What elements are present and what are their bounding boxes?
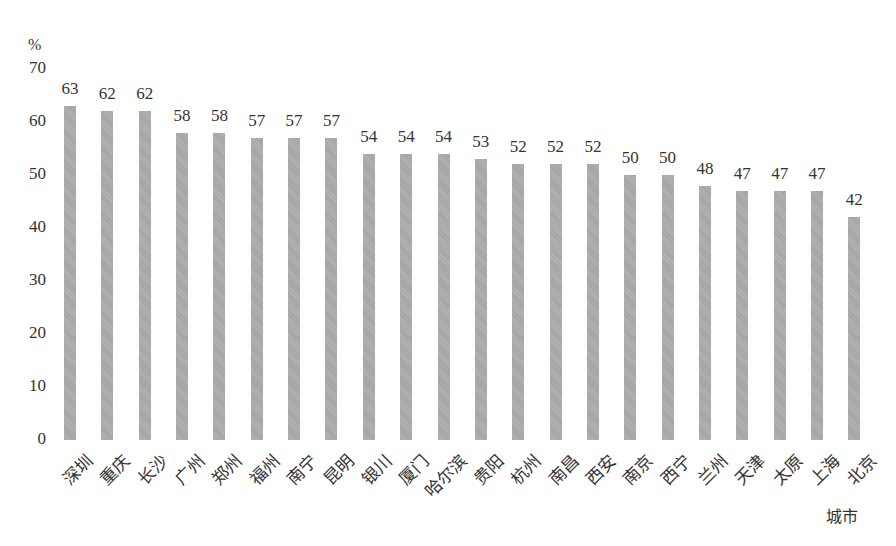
x-tick-label: 西安 <box>579 448 621 490</box>
bar-value-label: 52 <box>573 137 613 157</box>
bar <box>624 175 636 440</box>
y-tick-label: 70 <box>0 58 46 78</box>
bar <box>699 186 711 440</box>
bar-value-label: 47 <box>722 164 762 184</box>
bar <box>288 138 300 440</box>
bar-value-label: 52 <box>498 137 538 157</box>
bar <box>176 133 188 440</box>
x-tick-label: 广州 <box>168 448 210 490</box>
x-tick-label: 哈尔滨 <box>417 448 471 502</box>
x-tick-label: 南京 <box>616 448 658 490</box>
x-tick-label: 上海 <box>803 448 845 490</box>
x-axis-label: 城市 <box>826 503 858 527</box>
bar-value-label: 54 <box>349 127 389 147</box>
bar-value-label: 58 <box>199 106 239 126</box>
bar <box>774 191 786 440</box>
bar <box>251 138 263 440</box>
bar <box>736 191 748 440</box>
bar-value-label: 54 <box>386 127 426 147</box>
x-tick-label: 太原 <box>766 448 808 490</box>
bar <box>101 111 113 440</box>
bar-value-label: 50 <box>648 148 688 168</box>
bar <box>811 191 823 440</box>
bar-value-label: 54 <box>424 127 464 147</box>
bar-value-label: 53 <box>461 132 501 152</box>
bar <box>64 106 76 440</box>
y-axis-unit: % <box>28 36 41 54</box>
bar-value-label: 52 <box>536 137 576 157</box>
bar-value-label: 62 <box>125 84 165 104</box>
bar-value-label: 47 <box>760 164 800 184</box>
x-tick-label: 福州 <box>243 448 285 490</box>
x-tick-label: 兰州 <box>691 448 733 490</box>
x-tick-label: 杭州 <box>504 448 546 490</box>
bar <box>363 154 375 440</box>
bar-value-label: 50 <box>610 148 650 168</box>
bar <box>512 164 524 440</box>
bar <box>213 133 225 440</box>
y-tick-label: 20 <box>0 323 46 343</box>
bar <box>139 111 151 440</box>
bar <box>400 154 412 440</box>
x-tick-label: 郑州 <box>205 448 247 490</box>
y-tick-label: 0 <box>0 429 46 449</box>
x-tick-label: 南昌 <box>542 448 584 490</box>
bar-value-label: 57 <box>274 111 314 131</box>
bar-value-label: 58 <box>162 106 202 126</box>
bar-value-label: 57 <box>311 111 351 131</box>
x-tick-label: 北京 <box>840 448 882 490</box>
x-tick-label: 天津 <box>728 448 770 490</box>
bar-value-label: 62 <box>87 84 127 104</box>
y-tick-label: 50 <box>0 164 46 184</box>
x-tick-label: 南宁 <box>280 448 322 490</box>
bar <box>848 217 860 440</box>
y-tick-label: 40 <box>0 217 46 237</box>
bar-value-label: 47 <box>797 164 837 184</box>
bar-value-label: 48 <box>685 159 725 179</box>
bar-value-label: 57 <box>237 111 277 131</box>
y-tick-label: 60 <box>0 111 46 131</box>
bar <box>662 175 674 440</box>
x-tick-label: 西宁 <box>654 448 696 490</box>
x-tick-label: 长沙 <box>131 448 173 490</box>
bar <box>550 164 562 440</box>
bar <box>475 159 487 440</box>
x-tick-label: 昆明 <box>317 448 359 490</box>
bar-chart: % 010203040506070 63深圳62重庆62长沙58广州58郑州57… <box>0 0 896 546</box>
bar <box>438 154 450 440</box>
bar <box>325 138 337 440</box>
y-tick-label: 30 <box>0 270 46 290</box>
x-tick-label: 深圳 <box>56 448 98 490</box>
bar-value-label: 63 <box>50 79 90 99</box>
x-tick-label: 重庆 <box>93 448 135 490</box>
y-tick-label: 10 <box>0 376 46 396</box>
x-tick-label: 银川 <box>355 448 397 490</box>
x-tick-label: 贵阳 <box>467 448 509 490</box>
bar-value-label: 42 <box>834 190 874 210</box>
bar <box>587 164 599 440</box>
